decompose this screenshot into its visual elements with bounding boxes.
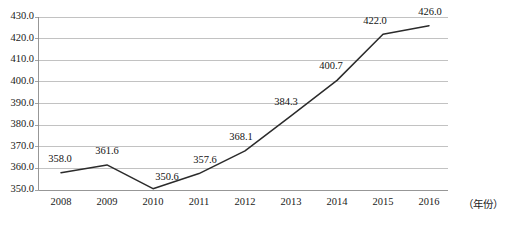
series-line bbox=[61, 26, 429, 189]
x-axis-tick-label: 2011 bbox=[176, 196, 222, 207]
y-axis-tick-label: 390.0 bbox=[0, 97, 34, 108]
x-axis-tick-label: 2016 bbox=[406, 196, 452, 207]
gridlines bbox=[35, 17, 448, 190]
x-axis-tick-label: 2009 bbox=[84, 196, 130, 207]
line-chart: 350.0360.0370.0380.0390.0400.0410.0420.0… bbox=[0, 0, 512, 227]
x-axis-tick-label: 2012 bbox=[222, 196, 268, 207]
x-axis-tick-label: 2013 bbox=[268, 196, 314, 207]
data-point-label: 368.1 bbox=[219, 131, 263, 142]
data-point-label: 357.6 bbox=[183, 154, 227, 165]
data-point-label: 422.0 bbox=[353, 15, 397, 26]
y-axis-tick-label: 420.0 bbox=[0, 32, 34, 43]
y-axis-tick-label: 430.0 bbox=[0, 10, 34, 21]
x-axis-tick-label: 2010 bbox=[130, 196, 176, 207]
data-point-label: 400.7 bbox=[309, 60, 353, 71]
data-point-label: 350.6 bbox=[145, 171, 189, 182]
y-axis-tick-label: 370.0 bbox=[0, 140, 34, 151]
y-axis-tick-label: 410.0 bbox=[0, 53, 34, 64]
y-axis-tick-label: 400.0 bbox=[0, 75, 34, 86]
y-axis-tick-label: 360.0 bbox=[0, 161, 34, 172]
x-axis-title: （年份） bbox=[463, 196, 503, 211]
x-axis-tick-label: 2014 bbox=[314, 196, 360, 207]
y-axis-tick-label: 350.0 bbox=[0, 183, 34, 194]
x-axis-tick-label: 2015 bbox=[360, 196, 406, 207]
x-axis-tick-label: 2008 bbox=[38, 196, 84, 207]
data-point-label: 361.6 bbox=[85, 145, 129, 156]
data-point-label: 426.0 bbox=[408, 6, 452, 17]
y-axis-tick-label: 380.0 bbox=[0, 118, 34, 129]
data-point-label: 358.0 bbox=[38, 153, 82, 164]
plot-area bbox=[0, 0, 512, 227]
data-line-series bbox=[61, 26, 429, 189]
data-point-label: 384.3 bbox=[264, 96, 308, 107]
